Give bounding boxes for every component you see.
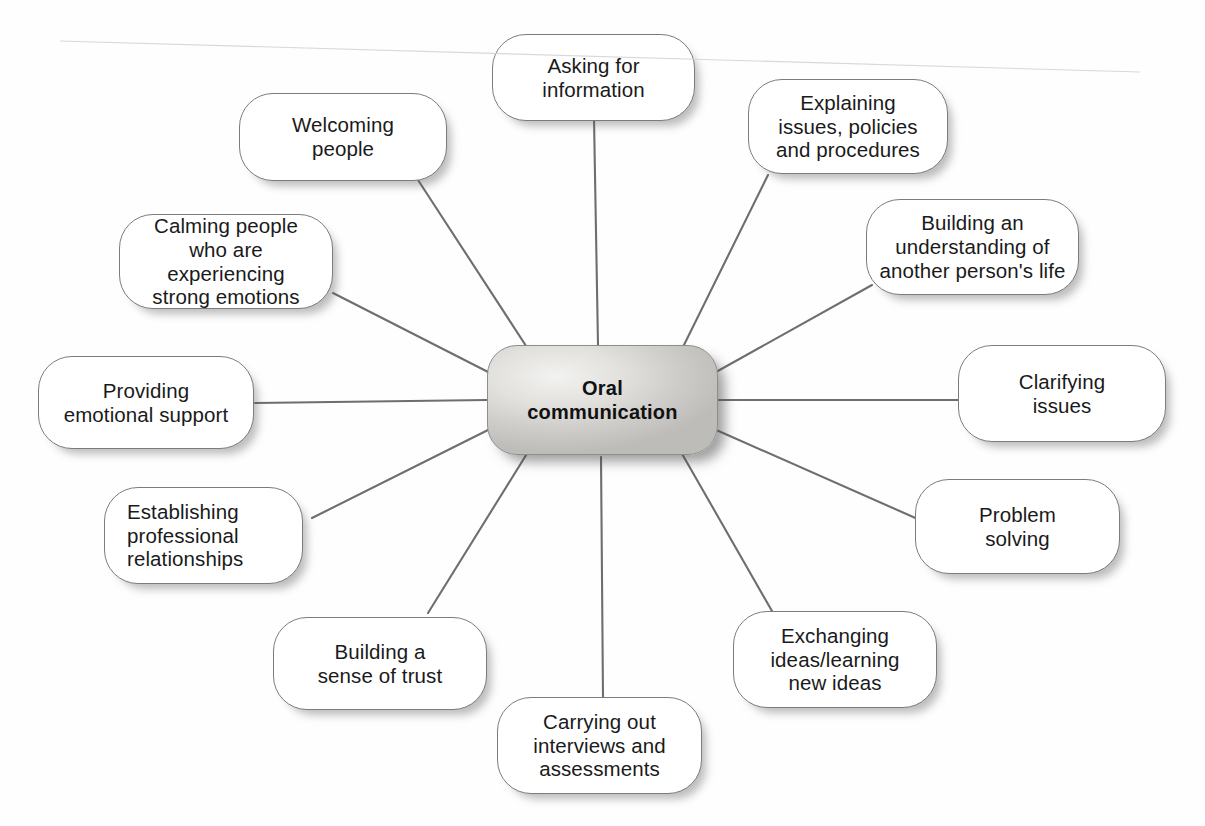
- connector-carrying-out-interviews: [601, 457, 603, 697]
- connector-welcoming-people: [418, 180, 530, 352]
- node-carrying-out-interviews[interactable]: Carrying out interviews and assessments: [497, 697, 702, 794]
- node-label: Establishing professional relationships: [105, 500, 253, 572]
- node-asking-for-information[interactable]: Asking for information: [492, 34, 695, 121]
- node-label: Building an understanding of another per…: [869, 211, 1075, 283]
- node-label: Providing emotional support: [54, 379, 239, 427]
- connector-building-understanding: [716, 285, 872, 372]
- node-building-understanding[interactable]: Building an understanding of another per…: [866, 199, 1079, 295]
- connector-exchanging-ideas: [681, 452, 772, 611]
- node-establishing-relationships[interactable]: Establishing professional relationships: [104, 487, 303, 584]
- center-node-label: Oral communication: [527, 376, 677, 424]
- node-clarifying-issues[interactable]: Clarifying issues: [958, 345, 1166, 442]
- connector-explaining-issues: [681, 175, 768, 351]
- node-label: Carrying out interviews and assessments: [523, 710, 675, 782]
- node-calming-people[interactable]: Calming people who are experiencing stro…: [119, 214, 333, 309]
- node-label: Building a sense of trust: [308, 640, 452, 688]
- connector-problem-solving: [714, 429, 920, 520]
- node-label: Explaining issues, policies and procedur…: [766, 91, 930, 163]
- connector-calming-people: [333, 293, 492, 374]
- node-label: Calming people who are experiencing stro…: [120, 214, 332, 310]
- node-welcoming-people[interactable]: Welcoming people: [239, 93, 447, 181]
- node-building-trust[interactable]: Building a sense of trust: [273, 617, 487, 710]
- connector-asking-for-information: [594, 118, 598, 345]
- node-label: Problem solving: [969, 503, 1066, 551]
- node-label: Asking for information: [532, 54, 655, 102]
- node-label: Welcoming people: [282, 113, 404, 161]
- center-node-oral-communication[interactable]: Oral communication: [487, 345, 718, 455]
- connector-establishing-relationships: [312, 428, 492, 518]
- connector-building-trust: [428, 452, 528, 613]
- node-label: Clarifying issues: [1009, 370, 1115, 418]
- connector-providing-emotional-support: [255, 400, 487, 403]
- node-explaining-issues[interactable]: Explaining issues, policies and procedur…: [748, 79, 948, 174]
- node-providing-emotional-support[interactable]: Providing emotional support: [38, 356, 254, 449]
- node-label: Exchanging ideas/learning new ideas: [760, 624, 909, 696]
- node-exchanging-ideas[interactable]: Exchanging ideas/learning new ideas: [733, 611, 937, 708]
- diagram-canvas: Oral communication Asking for informatio…: [0, 0, 1205, 826]
- node-problem-solving[interactable]: Problem solving: [915, 479, 1120, 574]
